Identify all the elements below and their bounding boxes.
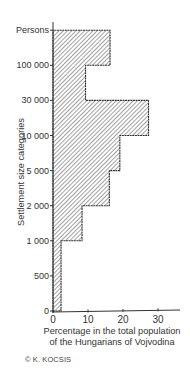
histogram-area: [53, 30, 149, 311]
y-tick-label: 5 000: [26, 166, 49, 176]
x-axis-label-line1: Percentage in the total population: [44, 326, 181, 336]
x-axis-label-line2: of the Hungarians of Vojvodina: [49, 337, 175, 347]
y-tick-label: 0: [44, 306, 49, 316]
y-tick-label: Persons: [16, 25, 50, 35]
y-axis-label: Settlement size categories: [16, 118, 26, 226]
x-tick-label: 0: [50, 314, 56, 325]
y-tick-label: 2 000: [26, 201, 49, 211]
histogram-chart: 05001 0002 0005 00010 00030 000100 000Pe…: [0, 0, 190, 381]
x-tick-label: 10: [82, 314, 94, 325]
copyright-credit: © K. KOCSIS: [25, 355, 71, 364]
x-tick-label: 30: [152, 314, 164, 325]
histogram-bars: [53, 30, 149, 311]
y-tick-label: 500: [34, 271, 49, 281]
y-tick-label: 30 000: [21, 95, 49, 105]
y-tick-label: 100 000: [16, 60, 49, 70]
y-tick-label: 1 000: [26, 236, 49, 246]
x-tick-label: 20: [117, 314, 129, 325]
